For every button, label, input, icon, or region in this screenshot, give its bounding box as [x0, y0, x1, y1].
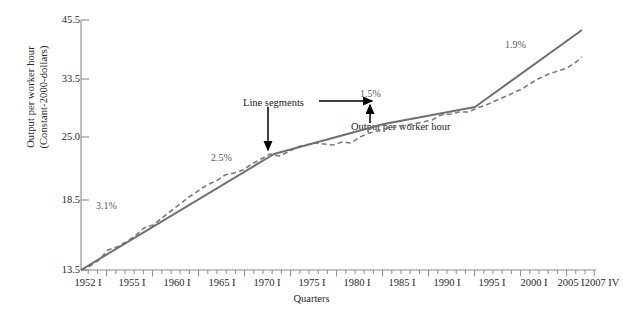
series-line-segments — [81, 30, 582, 270]
series-output-per-worker-hour — [81, 57, 582, 270]
plot-area — [0, 0, 623, 326]
y-axis-ticks — [81, 20, 89, 270]
chart-container: Output per worker hour (Constant-2000-do… — [0, 0, 623, 326]
x-axis-ticks — [88, 270, 594, 277]
